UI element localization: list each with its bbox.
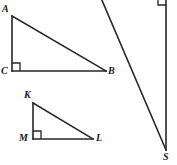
vertex-label-a: A (2, 4, 9, 14)
geometry-figure: A C B K M L S (0, 0, 177, 165)
vertex-label-c: C (1, 66, 8, 76)
segment-kl (33, 103, 93, 139)
vertex-label-s: S (163, 152, 169, 162)
vertex-label-l: L (96, 133, 102, 143)
right-angle-mark-m (33, 131, 41, 139)
vertex-label-k: K (24, 90, 31, 100)
vertex-label-b: B (108, 66, 115, 76)
triangle-abc-shape (12, 16, 106, 71)
triangle-kml-shape (33, 103, 93, 139)
segment-ab (12, 16, 106, 71)
vertex-label-m: M (19, 133, 28, 143)
right-angle-mark-c (12, 63, 20, 71)
right-angle-mark-top-right (158, 0, 166, 5)
